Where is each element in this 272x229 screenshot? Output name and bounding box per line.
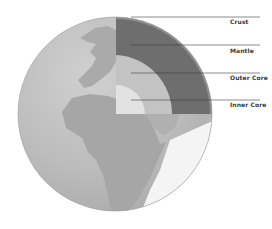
label-crust: Crust bbox=[230, 18, 249, 25]
label-inner-core: Inner Core bbox=[230, 101, 266, 108]
earth-layers-diagram bbox=[0, 0, 272, 229]
label-outer-core: Outer Core bbox=[230, 74, 268, 81]
cutaway-quarter bbox=[116, 17, 212, 114]
label-mantle: Mantle bbox=[230, 47, 254, 54]
